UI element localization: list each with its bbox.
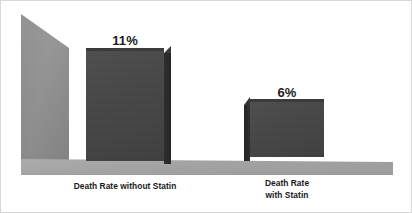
bar-top-face xyxy=(86,48,164,51)
bar-face-texture xyxy=(250,101,324,157)
category-label-without-statin: Death Rate without Statin xyxy=(55,180,195,192)
bar-chart: 11% Death Rate without Statin 6% Death R… xyxy=(0,0,412,213)
back-wall-shading xyxy=(21,13,69,161)
bar-value-label-with-statin: 6% xyxy=(250,85,324,100)
floor-plane xyxy=(21,141,393,175)
floor-front-edge xyxy=(21,173,393,175)
bar-without-statin[interactable] xyxy=(86,50,164,161)
bar-left-side-face xyxy=(244,105,250,161)
bar-face-texture xyxy=(86,50,164,161)
bar-right-side-face xyxy=(164,53,171,164)
bar-value-label-without-statin: 11% xyxy=(86,33,164,48)
bar-with-statin[interactable] xyxy=(250,101,324,157)
category-label-with-statin: Death Rate with Statin xyxy=(247,177,327,201)
